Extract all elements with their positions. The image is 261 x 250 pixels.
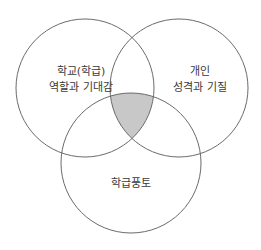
label-class-climate-line1: 학급풍토 [96, 176, 166, 192]
venn-svg [0, 0, 261, 250]
label-school-role-line1: 학교(학급) [26, 64, 136, 80]
label-personality-line1: 개인 [160, 64, 240, 80]
label-class-climate: 학급풍토 [96, 176, 166, 192]
center-intersection-region [61, 93, 201, 233]
label-school-role-line2: 역할과 기대감 [26, 80, 136, 96]
label-personality-line2: 성격과 기질 [160, 80, 240, 96]
venn-diagram: 학교(학급) 역할과 기대감 개인 성격과 기질 학급풍토 [0, 0, 261, 250]
label-personality: 개인 성격과 기질 [160, 64, 240, 96]
label-school-role: 학교(학급) 역할과 기대감 [26, 64, 136, 96]
